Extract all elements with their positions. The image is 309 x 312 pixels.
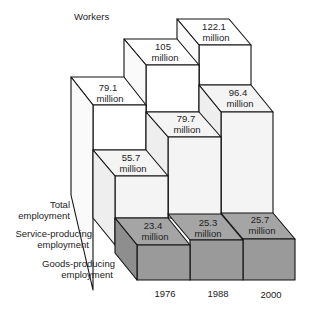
value-service-1988: 79.7 <box>177 113 196 124</box>
unit-service-1976: million <box>120 163 147 174</box>
row-label-service-1: Service-producing <box>15 228 92 239</box>
unit-total-1976: million <box>97 93 124 104</box>
value-total-1976: 79.1 <box>99 82 118 93</box>
row-label-goods-1: Goods-producing <box>42 258 115 269</box>
row-label-goods-2: employment <box>61 269 113 280</box>
chart-canvas: Workers <box>0 0 309 312</box>
value-goods-1976: 23.4 <box>144 220 163 231</box>
unit-goods-1988: million <box>195 228 222 239</box>
value-goods-1988: 25.3 <box>199 217 218 228</box>
year-label-1988: 1988 <box>207 288 228 299</box>
row-label-total-1: Total <box>50 199 70 210</box>
year-label-1976: 1976 <box>154 288 175 299</box>
value-total-1988: 105 <box>155 41 171 52</box>
value-total-2000: 122.1 <box>202 21 226 32</box>
year-label-2000: 2000 <box>260 289 281 300</box>
unit-service-2000: million <box>227 98 254 109</box>
value-service-1976: 55.7 <box>122 152 141 163</box>
unit-total-2000: million <box>203 32 230 43</box>
unit-goods-2000: million <box>249 225 276 236</box>
unit-total-1988: million <box>152 52 179 63</box>
value-goods-2000: 25.7 <box>251 214 270 225</box>
value-service-2000: 96.4 <box>229 87 248 98</box>
row-label-service-2: employment <box>37 239 89 250</box>
unit-goods-1976: million <box>142 231 169 242</box>
row-label-total-2: employment <box>18 210 70 221</box>
unit-service-1988: million <box>174 124 201 135</box>
chart-title: Workers <box>74 11 109 22</box>
